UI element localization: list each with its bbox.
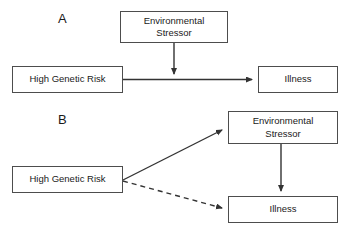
panel-b-high-genetic-risk-label: High Genetic Risk bbox=[29, 173, 105, 185]
arrow-high-genetic-risk-to-environmental-stressor-b bbox=[123, 130, 222, 180]
panel-b-environmental-stressor-label: Environmental Stressor bbox=[253, 115, 314, 139]
panel-label-a: A bbox=[58, 12, 67, 25]
dashed-arrow-high-genetic-risk-to-illness-b bbox=[123, 181, 222, 208]
gene-environment-diagram: A Environmental Stressor High Genetic Ri… bbox=[0, 0, 349, 238]
panel-b-high-genetic-risk-box: High Genetic Risk bbox=[12, 166, 123, 193]
panel-label-b: B bbox=[58, 113, 67, 126]
panel-a-illness-box: Illness bbox=[258, 66, 338, 93]
panel-a-environmental-stressor-label: Environmental Stressor bbox=[144, 15, 205, 39]
panel-a-high-genetic-risk-label: High Genetic Risk bbox=[29, 73, 105, 85]
panel-b-environmental-stressor-box: Environmental Stressor bbox=[228, 111, 338, 144]
panel-a-illness-label: Illness bbox=[285, 73, 312, 85]
panel-b-illness-box: Illness bbox=[228, 196, 338, 223]
panel-b-illness-label: Illness bbox=[270, 203, 297, 215]
panel-a-environmental-stressor-box: Environmental Stressor bbox=[120, 11, 228, 43]
panel-a-high-genetic-risk-box: High Genetic Risk bbox=[12, 66, 123, 93]
